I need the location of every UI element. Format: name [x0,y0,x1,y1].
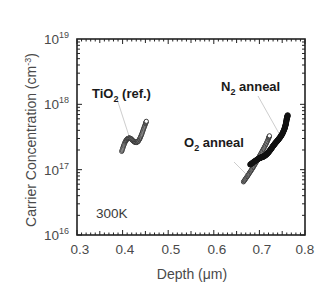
xtick-0.4: 0.4 [116,242,135,257]
series-tio2-ref- [120,119,149,153]
ytick-1e18: 1018 [44,95,69,112]
temperature-label: 300K [96,206,128,221]
x-axis-title: Depth (μm) [157,266,227,282]
xtick-0.8: 0.8 [296,242,315,257]
ytick-1e16: 1016 [44,226,69,243]
annotation-tio2-ref: TiO2 (ref.) [92,86,151,104]
x-tick-labels: 0.3 0.4 0.5 0.6 0.7 0.8 [71,242,315,257]
annotation-n2-anneal: N2 anneal [221,79,280,97]
y-axis-title: Carrier Concentration (cm-3) [23,53,39,227]
xtick-0.5: 0.5 [162,242,181,257]
y-tick-labels: 1019 1018 1017 1016 [44,30,69,243]
ytick-1e19: 1019 [44,30,69,47]
ytick-1e17: 1017 [44,161,69,178]
xtick-0.6: 0.6 [208,242,227,257]
xtick-0.3: 0.3 [71,242,90,257]
xtick-0.7: 0.7 [253,242,272,257]
carrier-concentration-chart: 1019 1018 1017 1016 0.3 0.4 0.5 0.6 0.7 … [0,0,333,306]
annotation-o2-anneal: O2 anneal [184,135,244,153]
